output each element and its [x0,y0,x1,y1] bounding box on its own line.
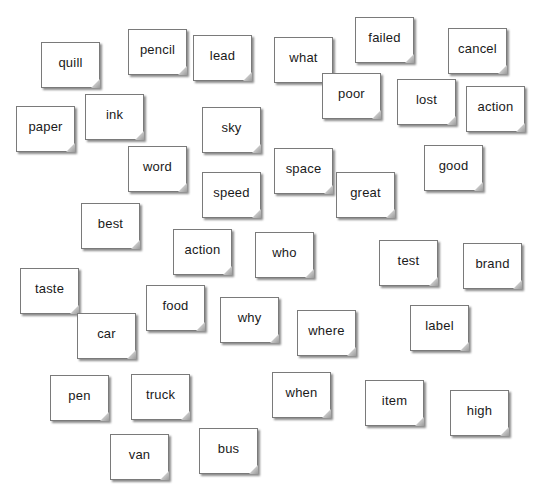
word-card[interactable]: when [272,372,331,418]
page-curl-icon [447,116,456,125]
card-word: van [111,447,168,462]
page-curl-icon [66,143,75,152]
page-curl-icon [252,209,261,218]
word-card[interactable]: good [424,145,483,191]
card-word: why [221,310,278,325]
word-card[interactable]: ink [85,94,144,140]
card-word: sky [203,120,260,135]
page-curl-icon [516,123,525,132]
card-word: lead [194,48,251,63]
card-word: cancel [449,41,506,56]
page-curl-icon [347,347,356,356]
card-word: bus [200,441,257,456]
card-word: great [337,185,394,200]
page-curl-icon [324,185,333,194]
page-curl-icon [460,342,469,351]
page-curl-icon [223,266,232,275]
page-curl-icon [372,110,381,119]
card-word: taste [21,281,78,296]
word-card[interactable]: where [297,310,356,356]
page-curl-icon [181,411,190,420]
word-card[interactable]: truck [131,374,190,420]
card-word: best [82,216,139,231]
word-card[interactable]: lead [193,35,252,81]
word-card[interactable]: van [110,434,169,480]
page-curl-icon [127,350,136,359]
card-word: high [451,403,508,418]
word-card[interactable]: failed [355,17,414,63]
card-word: car [78,326,135,341]
card-word: word [129,159,186,174]
word-card[interactable]: bus [199,428,258,474]
page-curl-icon [498,65,507,74]
card-word: quill [42,55,99,70]
page-curl-icon [135,131,144,140]
word-card[interactable]: great [336,172,395,218]
card-word: paper [17,119,74,134]
page-curl-icon [100,412,109,421]
word-card[interactable]: action [466,86,525,132]
word-card[interactable]: pen [50,375,109,421]
word-card-board: quill pencil lead what failed cancel pap… [0,0,544,495]
card-word: ink [86,107,143,122]
word-card[interactable]: pencil [128,29,187,75]
page-curl-icon [243,72,252,81]
card-word: poor [323,86,380,101]
word-card[interactable]: action [173,229,232,275]
word-card[interactable]: brand [463,243,522,289]
word-card[interactable]: lost [397,79,456,125]
card-word: pen [51,388,108,403]
word-card[interactable]: space [274,148,333,194]
word-card[interactable]: high [450,390,509,436]
word-card[interactable]: quill [41,42,100,88]
page-curl-icon [405,54,414,63]
card-word: test [380,253,437,268]
page-curl-icon [131,240,140,249]
page-curl-icon [252,144,261,153]
word-card[interactable]: word [128,146,187,192]
word-card[interactable]: sky [202,107,261,153]
word-card[interactable]: test [379,240,438,286]
page-curl-icon [500,427,509,436]
card-word: item [366,393,423,408]
card-word: space [275,161,332,176]
page-curl-icon [91,79,100,88]
page-curl-icon [305,269,314,278]
word-card[interactable]: who [255,232,314,278]
word-card[interactable]: best [81,203,140,249]
page-curl-icon [386,209,395,218]
word-card[interactable]: taste [20,268,79,314]
page-curl-icon [196,322,205,331]
word-card[interactable]: why [220,297,279,343]
page-curl-icon [178,66,187,75]
word-card[interactable]: label [410,305,469,351]
page-curl-icon [429,277,438,286]
card-word: action [467,99,524,114]
card-word: who [256,245,313,260]
page-curl-icon [160,471,169,480]
word-card[interactable]: cancel [448,28,507,74]
card-word: truck [132,387,189,402]
page-curl-icon [249,465,258,474]
card-word: what [275,50,332,65]
page-curl-icon [270,334,279,343]
page-curl-icon [513,280,522,289]
card-word: good [425,158,482,173]
word-card[interactable]: car [77,313,136,359]
word-card[interactable]: paper [16,106,75,152]
page-curl-icon [322,409,331,418]
word-card[interactable]: food [146,285,205,331]
page-curl-icon [474,182,483,191]
page-curl-icon [415,417,424,426]
page-curl-icon [178,183,187,192]
card-word: lost [398,92,455,107]
word-card[interactable]: item [365,380,424,426]
card-word: failed [356,30,413,45]
card-word: when [273,385,330,400]
card-word: label [411,318,468,333]
card-word: brand [464,256,521,271]
card-word: where [298,323,355,338]
word-card[interactable]: poor [322,73,381,119]
card-word: pencil [129,42,186,57]
word-card[interactable]: speed [202,172,261,218]
